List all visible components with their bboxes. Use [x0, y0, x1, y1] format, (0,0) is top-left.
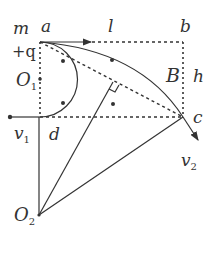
label-O1: O1 — [16, 69, 37, 92]
field-dot — [61, 59, 65, 63]
field-dot — [61, 101, 65, 105]
label-h: h — [193, 66, 204, 86]
magnetic-field-dots — [61, 58, 115, 106]
label-charge: +q — [12, 42, 36, 61]
radius-O2-perpendicular — [39, 82, 113, 215]
center-O1-dot — [38, 77, 42, 81]
label-v1: v1 — [14, 123, 30, 145]
label-l: l — [108, 16, 113, 36]
field-dot — [110, 58, 114, 62]
label-B: B — [165, 64, 180, 86]
semicircle-trajectory — [40, 42, 78, 117]
label-v2: v2 — [181, 150, 197, 172]
physics-diagram: m a +q l b h B c d O1 v1 v2 O2 — [0, 0, 205, 253]
radius-O2-to-c — [39, 117, 183, 215]
label-m: m — [13, 18, 29, 38]
label-d: d — [49, 124, 60, 144]
field-dot — [111, 102, 115, 106]
v1-arrow-tip — [8, 115, 12, 119]
label-O2: O2 — [14, 204, 35, 227]
label-c: c — [193, 107, 203, 127]
center-O2-dot — [37, 213, 40, 216]
label-a: a — [41, 16, 51, 36]
label-b: b — [180, 16, 191, 36]
chord-ac — [40, 42, 183, 117]
